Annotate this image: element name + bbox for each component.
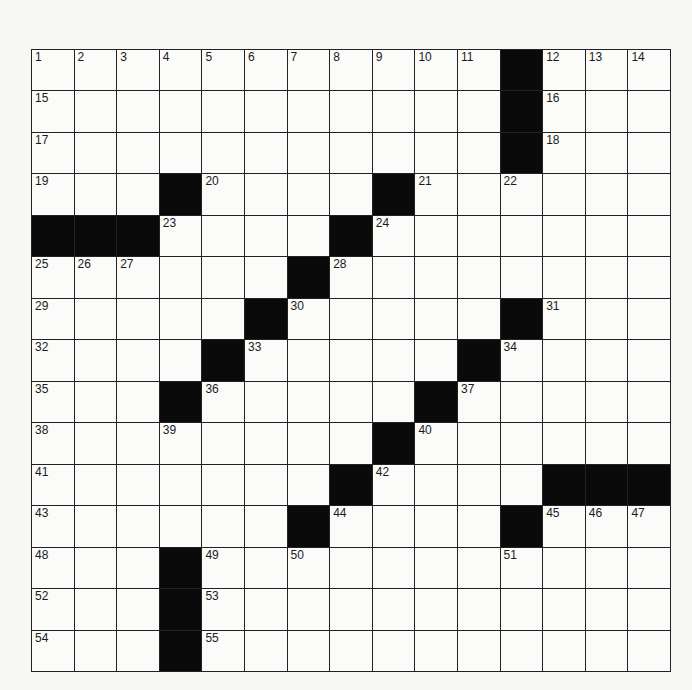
grid-cell[interactable] (117, 589, 159, 629)
grid-cell[interactable] (245, 257, 287, 297)
grid-cell[interactable] (160, 299, 202, 339)
grid-cell[interactable] (75, 299, 117, 339)
grid-cell[interactable] (245, 216, 287, 256)
grid-cell[interactable]: 22 (501, 174, 543, 214)
grid-cell[interactable] (75, 133, 117, 173)
grid-cell[interactable] (458, 216, 500, 256)
grid-cell[interactable]: 28 (330, 257, 372, 297)
grid-cell[interactable] (501, 423, 543, 463)
grid-cell[interactable] (501, 216, 543, 256)
grid-cell[interactable]: 51 (501, 548, 543, 588)
grid-cell[interactable]: 6 (245, 50, 287, 90)
grid-cell[interactable]: 7 (288, 50, 330, 90)
grid-cell[interactable] (458, 299, 500, 339)
grid-cell[interactable]: 41 (32, 465, 74, 505)
grid-cell[interactable] (628, 174, 670, 214)
grid-cell[interactable] (202, 257, 244, 297)
grid-cell[interactable]: 35 (32, 382, 74, 422)
grid-cell[interactable]: 47 (628, 506, 670, 546)
grid-cell[interactable] (543, 382, 585, 422)
grid-cell[interactable]: 38 (32, 423, 74, 463)
grid-cell[interactable] (288, 423, 330, 463)
grid-cell[interactable] (75, 589, 117, 629)
grid-cell[interactable]: 48 (32, 548, 74, 588)
grid-cell[interactable] (373, 589, 415, 629)
grid-cell[interactable]: 36 (202, 382, 244, 422)
grid-cell[interactable] (330, 133, 372, 173)
grid-cell[interactable]: 39 (160, 423, 202, 463)
grid-cell[interactable]: 27 (117, 257, 159, 297)
grid-cell[interactable] (117, 382, 159, 422)
grid-cell[interactable] (458, 423, 500, 463)
grid-cell[interactable] (586, 216, 628, 256)
grid-cell[interactable] (501, 589, 543, 629)
grid-cell[interactable]: 32 (32, 340, 74, 380)
grid-cell[interactable] (245, 465, 287, 505)
grid-cell[interactable] (202, 423, 244, 463)
grid-cell[interactable] (586, 423, 628, 463)
grid-cell[interactable] (628, 299, 670, 339)
grid-cell[interactable]: 5 (202, 50, 244, 90)
grid-cell[interactable] (117, 340, 159, 380)
grid-cell[interactable] (628, 91, 670, 131)
grid-cell[interactable] (117, 548, 159, 588)
grid-cell[interactable] (415, 216, 457, 256)
grid-cell[interactable]: 19 (32, 174, 74, 214)
grid-cell[interactable] (373, 631, 415, 671)
grid-cell[interactable]: 15 (32, 91, 74, 131)
grid-cell[interactable] (288, 133, 330, 173)
grid-cell[interactable] (501, 631, 543, 671)
grid-cell[interactable] (501, 382, 543, 422)
grid-cell[interactable] (415, 91, 457, 131)
grid-cell[interactable]: 9 (373, 50, 415, 90)
grid-cell[interactable] (458, 631, 500, 671)
grid-cell[interactable] (160, 91, 202, 131)
grid-cell[interactable] (245, 631, 287, 671)
grid-cell[interactable]: 29 (32, 299, 74, 339)
grid-cell[interactable] (586, 174, 628, 214)
grid-cell[interactable]: 1 (32, 50, 74, 90)
grid-cell[interactable] (586, 548, 628, 588)
grid-cell[interactable] (373, 340, 415, 380)
grid-cell[interactable] (117, 299, 159, 339)
grid-cell[interactable] (628, 133, 670, 173)
grid-cell[interactable] (160, 506, 202, 546)
grid-cell[interactable] (117, 506, 159, 546)
grid-cell[interactable] (75, 548, 117, 588)
grid-cell[interactable]: 42 (373, 465, 415, 505)
grid-cell[interactable]: 10 (415, 50, 457, 90)
grid-cell[interactable] (202, 133, 244, 173)
grid-cell[interactable] (330, 382, 372, 422)
grid-cell[interactable] (373, 299, 415, 339)
grid-cell[interactable] (245, 506, 287, 546)
grid-cell[interactable]: 3 (117, 50, 159, 90)
grid-cell[interactable] (330, 299, 372, 339)
grid-cell[interactable] (75, 340, 117, 380)
grid-cell[interactable] (628, 216, 670, 256)
grid-cell[interactable] (586, 299, 628, 339)
grid-cell[interactable] (415, 548, 457, 588)
grid-cell[interactable]: 33 (245, 340, 287, 380)
grid-cell[interactable] (543, 423, 585, 463)
grid-cell[interactable] (245, 423, 287, 463)
grid-cell[interactable] (288, 216, 330, 256)
grid-cell[interactable] (160, 465, 202, 505)
grid-cell[interactable]: 50 (288, 548, 330, 588)
grid-cell[interactable]: 2 (75, 50, 117, 90)
grid-cell[interactable] (373, 382, 415, 422)
grid-cell[interactable] (288, 589, 330, 629)
grid-cell[interactable] (202, 506, 244, 546)
grid-cell[interactable] (117, 133, 159, 173)
grid-cell[interactable] (458, 465, 500, 505)
grid-cell[interactable] (288, 465, 330, 505)
grid-cell[interactable] (75, 382, 117, 422)
grid-cell[interactable] (586, 133, 628, 173)
grid-cell[interactable] (117, 174, 159, 214)
grid-cell[interactable]: 11 (458, 50, 500, 90)
grid-cell[interactable] (245, 548, 287, 588)
grid-cell[interactable] (202, 91, 244, 131)
grid-cell[interactable] (501, 465, 543, 505)
grid-cell[interactable] (330, 423, 372, 463)
grid-cell[interactable]: 26 (75, 257, 117, 297)
grid-cell[interactable]: 16 (543, 91, 585, 131)
